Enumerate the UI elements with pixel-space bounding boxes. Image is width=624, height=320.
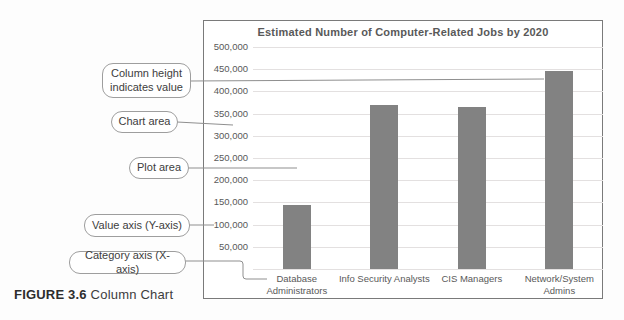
bar-3 (458, 107, 486, 269)
figure-caption-title: Column Chart (91, 287, 174, 302)
callout-plot-area: Plot area (129, 157, 189, 179)
y-axis-tick-label: 150,000 (204, 196, 248, 207)
y-axis-tick-label: 250,000 (204, 152, 248, 163)
callout-category-axis: Category axis (X-axis) (69, 251, 186, 274)
figure-caption-number: FIGURE 3.6 (14, 287, 87, 302)
y-axis-tick-label: 500,000 (204, 41, 248, 52)
bar-4 (545, 71, 573, 269)
callout-value-axis: Value axis (Y-axis) (84, 214, 190, 237)
callout-chart-area: Chart area (111, 111, 178, 133)
bar-1 (283, 205, 311, 269)
chart-area-box: Estimated Number of Computer-Related Job… (203, 20, 603, 299)
y-axis-tick-label: 400,000 (204, 85, 248, 96)
bar-2 (370, 105, 398, 269)
y-axis-tick-label: 200,000 (204, 174, 248, 185)
gridline (253, 269, 603, 270)
y-axis-tick-label: 100,000 (204, 219, 248, 230)
y-axis-tick-label: 50,000 (204, 241, 248, 252)
figure-caption: FIGURE 3.6 Column Chart (14, 287, 173, 302)
chart-title: Estimated Number of Computer-Related Job… (204, 26, 602, 38)
x-axis-category-label: Network/System Admins (504, 273, 614, 297)
gridline (253, 47, 603, 48)
gridline (253, 69, 603, 70)
callout-column-height: Column height indicates value (102, 63, 191, 98)
y-axis-tick-label: 300,000 (204, 130, 248, 141)
y-axis-tick-label: 450,000 (204, 63, 248, 74)
textbook-figure-column-chart: Estimated Number of Computer-Related Job… (0, 0, 624, 320)
y-axis-tick-label: 350,000 (204, 108, 248, 119)
